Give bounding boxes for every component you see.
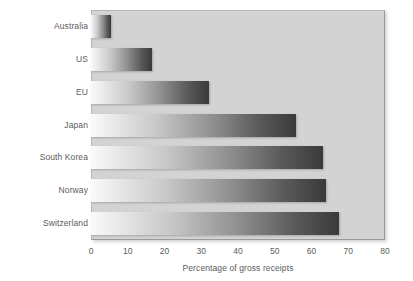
bar: [91, 81, 209, 104]
bar-row: [91, 212, 385, 235]
bar-row: [91, 81, 385, 104]
bar: [91, 15, 111, 38]
x-axis-ticks: 01020304050607080: [91, 245, 385, 258]
category-axis: AustraliaUSEUJapanSouth KoreaNorwaySwitz…: [0, 10, 88, 240]
category-label: Japan: [0, 120, 88, 131]
bar: [91, 179, 326, 202]
bar-row: [91, 48, 385, 71]
bar-chart: AustraliaUSEUJapanSouth KoreaNorwaySwitz…: [0, 0, 413, 281]
x-tick-label: 40: [233, 245, 242, 257]
x-tick-label: 30: [197, 245, 206, 257]
category-label: South Korea: [0, 152, 88, 163]
bar: [91, 48, 152, 71]
x-tick-label: 20: [160, 245, 169, 257]
x-tick-label: 50: [270, 245, 279, 257]
x-tick-label: 0: [89, 245, 94, 257]
x-tick-label: 70: [344, 245, 353, 257]
bar: [91, 146, 323, 169]
bar-row: [91, 15, 385, 38]
bar-row: [91, 114, 385, 137]
bars-layer: [91, 10, 385, 240]
x-tick-label: 10: [123, 245, 132, 257]
x-axis-title: Percentage of gross receipts: [91, 262, 385, 274]
category-label: Switzerland: [0, 218, 88, 229]
bar: [91, 212, 339, 235]
x-tick-label: 60: [307, 245, 316, 257]
bar-row: [91, 179, 385, 202]
bar: [91, 114, 296, 137]
category-label: US: [0, 54, 88, 65]
category-label: Australia: [0, 21, 88, 32]
category-label: EU: [0, 87, 88, 98]
x-tick-label: 80: [380, 245, 389, 257]
bar-row: [91, 146, 385, 169]
category-label: Norway: [0, 185, 88, 196]
